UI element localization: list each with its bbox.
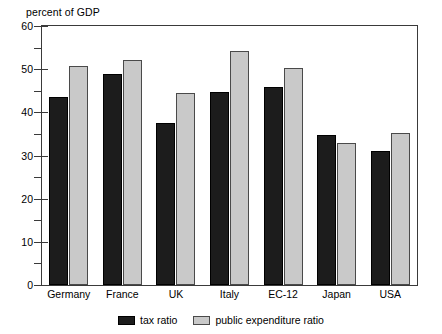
y-tick-label: 30 (3, 151, 33, 161)
bar-group (42, 26, 417, 285)
legend-item: tax ratio (118, 315, 177, 326)
y-tick-label: 50 (3, 64, 33, 74)
x-axis-labels: GermanyFranceUKItalyEC-12JapanUSA (42, 288, 417, 304)
y-tick-label: 20 (3, 194, 33, 204)
x-tick-label: Japan (322, 288, 351, 301)
y-tick-label: 0 (3, 280, 33, 290)
y-tick-minor (34, 177, 41, 178)
legend-label: public expenditure ratio (215, 315, 324, 326)
y-tick-label: 40 (3, 107, 33, 117)
legend-item: public expenditure ratio (193, 315, 324, 326)
chart-legend: tax ratiopublic expenditure ratio (0, 311, 442, 329)
x-tick-label: Germany (47, 288, 90, 301)
x-tick-label: USA (379, 288, 401, 301)
bar-public-expenditure-ratio (391, 133, 410, 285)
y-axis-title: percent of GDP (26, 6, 100, 18)
y-tick-label: 60 (3, 21, 33, 31)
y-tick-minor (34, 134, 41, 135)
legend-swatch-icon (193, 316, 210, 325)
x-tick-label: EC-12 (268, 288, 298, 301)
bar-chart: percent of GDP 6050403020100 GermanyFran… (0, 0, 442, 334)
y-tick-minor (34, 263, 41, 264)
y-tick-minor (34, 91, 41, 92)
x-tick-label: Italy (220, 288, 239, 301)
y-tick-minor (34, 220, 41, 221)
y-tick-minor (34, 48, 41, 49)
legend-label: tax ratio (140, 315, 177, 326)
x-tick-label: France (106, 288, 139, 301)
y-tick-label: 10 (3, 237, 33, 247)
legend-swatch-icon (118, 316, 135, 325)
bar-tax-ratio (371, 151, 390, 285)
bars-container (42, 26, 417, 285)
x-tick-label: UK (169, 288, 184, 301)
